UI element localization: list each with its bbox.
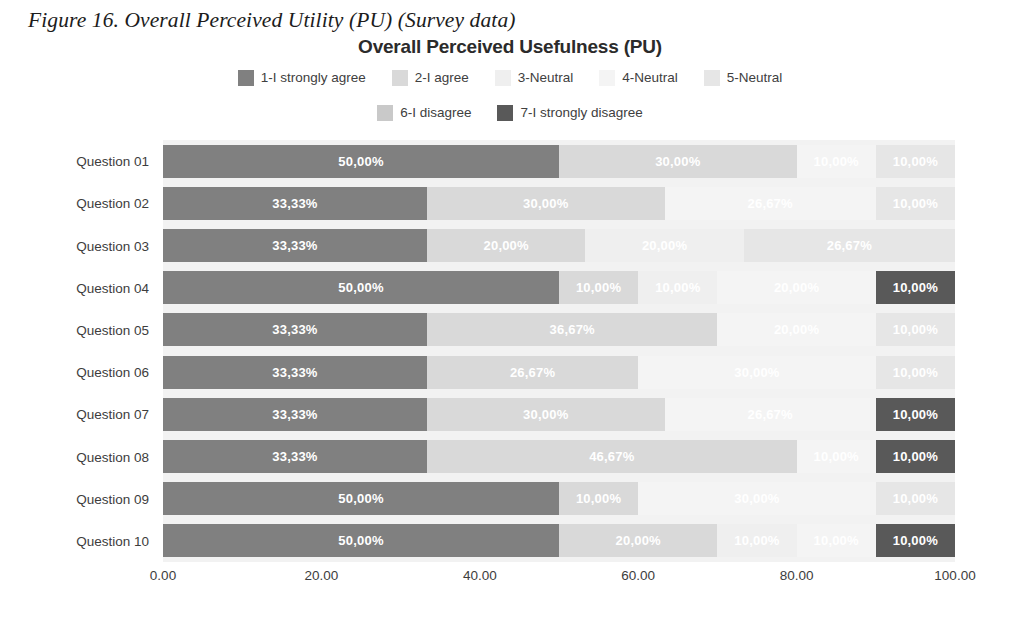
legend-swatch-icon: [495, 70, 511, 86]
bar-segment[interactable]: 10,00%: [876, 145, 955, 178]
bar-row: 33,33%26,67%30,00%10,00%: [163, 356, 955, 389]
legend-item-label: 2-I agree: [415, 71, 469, 85]
bar-segment[interactable]: 10,00%: [876, 313, 955, 346]
y-axis-tick-label: Question 08: [76, 449, 149, 464]
y-axis-tick-label: Question 10: [76, 533, 149, 548]
bar-segment[interactable]: 10,00%: [876, 187, 955, 220]
bar-row: 33,33%30,00%26,67%10,00%: [163, 187, 955, 220]
bar-segment[interactable]: 20,00%: [559, 524, 717, 557]
legend-item[interactable]: 1-I strongly agree: [238, 70, 366, 86]
bar-segment[interactable]: 30,00%: [638, 356, 876, 389]
legend-item-label: 3-Neutral: [518, 71, 574, 85]
bar-segment-label: 30,00%: [523, 408, 568, 421]
bar-segment-label: 10,00%: [814, 534, 859, 547]
legend-item-label: 7-I strongly disagree: [520, 106, 642, 120]
bar-segment[interactable]: 50,00%: [163, 524, 559, 557]
bar-segment[interactable]: 20,00%: [717, 271, 875, 304]
bar-segment[interactable]: 33,33%: [163, 398, 427, 431]
x-axis-tick-label: 40.00: [463, 568, 497, 583]
bar-segment[interactable]: 10,00%: [797, 440, 876, 473]
x-axis-tick-label: 80.00: [780, 568, 814, 583]
bar-segment-label: 20,00%: [642, 239, 687, 252]
legend-item-label: 5-Neutral: [727, 71, 783, 85]
bar-row: 50,00%10,00%10,00%20,00%10,00%: [163, 271, 955, 304]
bar-segment-label: 10,00%: [893, 281, 938, 294]
bar-segment-label: 30,00%: [523, 197, 568, 210]
bar-row: 33,33%46,67%10,00%10,00%: [163, 440, 955, 473]
bar-segment-label: 30,00%: [655, 155, 700, 168]
bar-segment-label: 20,00%: [484, 239, 529, 252]
bar-segment-label: 33,33%: [272, 197, 317, 210]
bar-segment-label: 50,00%: [338, 155, 383, 168]
bar-segment-label: 30,00%: [734, 366, 779, 379]
legend-item[interactable]: 5-Neutral: [704, 70, 783, 86]
bar-segment[interactable]: 30,00%: [427, 398, 665, 431]
bar-segment-label: 26,67%: [510, 366, 555, 379]
bar-segment[interactable]: 10,00%: [876, 271, 955, 304]
bar-segment[interactable]: 20,00%: [427, 229, 585, 262]
bar-segment[interactable]: 26,67%: [665, 187, 876, 220]
legend-swatch-icon: [599, 70, 615, 86]
bar-segment[interactable]: 20,00%: [717, 313, 875, 346]
legend-row-secondary: 6-I disagree7-I strongly disagree: [0, 105, 1020, 121]
bar-segment[interactable]: 10,00%: [559, 271, 638, 304]
bar-segment[interactable]: 30,00%: [427, 187, 665, 220]
bar-segment-label: 33,33%: [272, 408, 317, 421]
legend-item[interactable]: 7-I strongly disagree: [497, 105, 642, 121]
bar-segment[interactable]: 10,00%: [797, 524, 876, 557]
bar-segment-label: 10,00%: [576, 492, 621, 505]
bar-segment[interactable]: 30,00%: [638, 482, 876, 515]
y-axis-tick-label: Question 07: [76, 407, 149, 422]
legend-item[interactable]: 3-Neutral: [495, 70, 574, 86]
bar-segment[interactable]: 20,00%: [585, 229, 743, 262]
legend-swatch-icon: [497, 105, 513, 121]
bar-segment[interactable]: 33,33%: [163, 440, 427, 473]
bar-segment-label: 10,00%: [814, 450, 859, 463]
y-axis-tick-label: Question 06: [76, 365, 149, 380]
y-axis-tick-label: Question 02: [76, 196, 149, 211]
legend-item[interactable]: 4-Neutral: [599, 70, 678, 86]
bar-segment[interactable]: 26,67%: [665, 398, 876, 431]
bar-segment-label: 50,00%: [338, 281, 383, 294]
bar-segment[interactable]: 30,00%: [559, 145, 797, 178]
legend-swatch-icon: [377, 105, 393, 121]
bar-segment[interactable]: 10,00%: [876, 482, 955, 515]
bar-segment[interactable]: 33,33%: [163, 229, 427, 262]
chart-title: Overall Perceived Usefulness (PU): [0, 36, 1020, 58]
legend-swatch-icon: [238, 70, 254, 86]
bar-segment[interactable]: 50,00%: [163, 482, 559, 515]
bar-segment[interactable]: 26,67%: [744, 229, 955, 262]
bar-segment[interactable]: 33,33%: [163, 356, 427, 389]
y-axis-tick-label: Question 04: [76, 280, 149, 295]
bar-segment[interactable]: 10,00%: [559, 482, 638, 515]
legend-item[interactable]: 6-I disagree: [377, 105, 471, 121]
bar-segment-label: 10,00%: [893, 323, 938, 336]
bar-segment-label: 10,00%: [893, 155, 938, 168]
bar-segment[interactable]: 33,33%: [163, 187, 427, 220]
y-axis-tick-label: Question 03: [76, 238, 149, 253]
bar-segment-label: 10,00%: [893, 492, 938, 505]
bar-segment-label: 33,33%: [272, 323, 317, 336]
bar-segment[interactable]: 10,00%: [797, 145, 876, 178]
bar-segment[interactable]: 26,67%: [427, 356, 638, 389]
bar-segment-label: 26,67%: [748, 197, 793, 210]
bar-segment[interactable]: 10,00%: [876, 356, 955, 389]
bar-segment[interactable]: 50,00%: [163, 271, 559, 304]
bar-segment[interactable]: 33,33%: [163, 313, 427, 346]
bar-segment[interactable]: 10,00%: [638, 271, 717, 304]
bar-segment[interactable]: 36,67%: [427, 313, 717, 346]
bar-segment-label: 46,67%: [589, 450, 634, 463]
bar-segment[interactable]: 10,00%: [717, 524, 796, 557]
bar-row: 50,00%20,00%10,00%10,00%10,00%: [163, 524, 955, 557]
bar-segment[interactable]: 10,00%: [876, 440, 955, 473]
bar-segment-label: 10,00%: [814, 155, 859, 168]
bar-segment[interactable]: 50,00%: [163, 145, 559, 178]
bar-segment[interactable]: 10,00%: [876, 524, 955, 557]
y-axis-labels: Question 01Question 02Question 03Questio…: [0, 140, 158, 562]
y-axis-tick-label: Question 01: [76, 154, 149, 169]
legend-item[interactable]: 2-I agree: [392, 70, 469, 86]
x-axis-labels: 0.0020.0040.0060.0080.00100.00: [163, 568, 955, 590]
bar-segment[interactable]: 46,67%: [427, 440, 797, 473]
bar-segment-label: 10,00%: [893, 366, 938, 379]
bar-segment[interactable]: 10,00%: [876, 398, 955, 431]
